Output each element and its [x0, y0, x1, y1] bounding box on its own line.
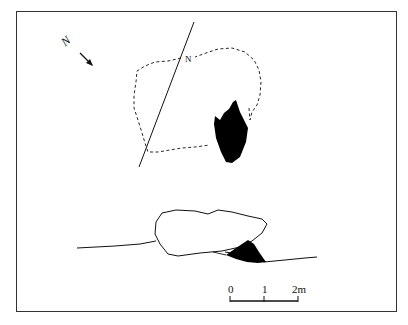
scale-tick-0: 0 — [228, 283, 234, 295]
scale-tick-2m: 2m — [292, 283, 306, 295]
north-arrow-icon — [80, 53, 93, 66]
plan-section-drawing — [0, 0, 408, 325]
baseline-label: N — [185, 54, 192, 64]
baseline-line — [139, 22, 194, 167]
plan-filled-stone — [214, 100, 248, 163]
scale-bar — [230, 296, 298, 302]
scale-tick-1: 1 — [262, 283, 268, 295]
